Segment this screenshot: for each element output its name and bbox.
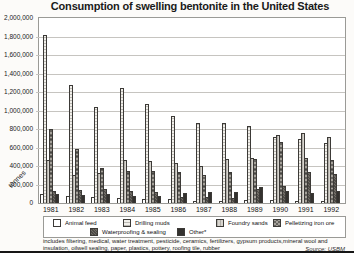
legend-swatch xyxy=(273,219,281,227)
legend-item: Foundry sands xyxy=(216,219,268,227)
gridline xyxy=(36,37,345,38)
x-axis-label: 1983 xyxy=(94,206,110,213)
y-axis-label: 1,000,000 xyxy=(4,107,33,114)
bar-group-1982 xyxy=(65,85,90,203)
legend-label: Other* xyxy=(185,229,206,235)
legend-label: Pelletizing iron ore xyxy=(281,220,334,226)
bar xyxy=(234,192,238,203)
bar xyxy=(285,191,289,203)
bar xyxy=(183,193,187,203)
legend: Animal feedDrilling mudsFoundry sandsPel… xyxy=(43,216,346,238)
y-axis-label: 600,000 xyxy=(10,144,34,151)
bar xyxy=(106,194,110,203)
x-axis: 1981198219831984198519861987198819891990… xyxy=(38,206,345,216)
bar xyxy=(132,196,136,203)
bar xyxy=(81,195,85,203)
legend-swatch xyxy=(177,228,185,236)
chart-title: Consumption of swelling bentonite in the… xyxy=(30,0,350,12)
x-axis-label: 1991 xyxy=(298,206,314,213)
legend-swatch xyxy=(216,219,224,227)
gridline xyxy=(36,55,345,56)
x-axis-label: 1984 xyxy=(119,206,135,213)
bar-group-1985 xyxy=(141,104,166,203)
x-axis-label: 1990 xyxy=(272,206,288,213)
legend-label: Foundry sands xyxy=(224,220,268,226)
bar-group-1986 xyxy=(167,116,192,203)
bar xyxy=(336,191,340,203)
footnote: includes filtering, medical, water treat… xyxy=(43,238,346,252)
gridline xyxy=(36,74,345,75)
bar-group-1988 xyxy=(218,123,243,203)
y-axis-label: 1,600,000 xyxy=(4,51,33,58)
legend-item: Waterproofing & sealing xyxy=(90,228,166,236)
x-axis-label: 1985 xyxy=(145,206,161,213)
bar xyxy=(55,194,59,203)
bar xyxy=(259,187,263,203)
legend-label: Drilling muds xyxy=(131,220,170,226)
x-axis-label: 1982 xyxy=(68,206,84,213)
bar-group-1981 xyxy=(39,35,64,203)
y-axis-label: 2,000,000 xyxy=(4,14,33,21)
bar xyxy=(157,196,161,203)
legend-swatch xyxy=(123,219,131,227)
y-axis-label: 800,000 xyxy=(10,125,34,132)
bar-group-1991 xyxy=(294,133,319,203)
x-axis-label: 1981 xyxy=(43,206,59,213)
legend-item: Animal feed xyxy=(53,219,97,227)
bar-group-1983 xyxy=(90,107,115,203)
bar xyxy=(310,193,314,203)
legend-item: Pelletizing iron ore xyxy=(273,219,334,227)
bar-group-1989 xyxy=(243,126,268,203)
plot-area xyxy=(38,17,346,204)
bar-group-1984 xyxy=(116,88,141,203)
bar-group-1990 xyxy=(269,135,294,203)
legend-swatch xyxy=(90,228,98,236)
legend-label: Waterproofing & sealing xyxy=(98,229,166,235)
y-axis-label: 0 xyxy=(29,199,33,206)
x-axis-label: 1986 xyxy=(170,206,186,213)
bar-group-1992 xyxy=(320,137,345,203)
x-axis-label: 1992 xyxy=(323,206,339,213)
x-axis-label: 1988 xyxy=(221,206,237,213)
x-axis-label: 1987 xyxy=(196,206,212,213)
legend-item: Other* xyxy=(177,228,206,236)
bar-group-1987 xyxy=(192,123,217,203)
x-axis-label: 1989 xyxy=(247,206,263,213)
legend-item: Drilling muds xyxy=(123,219,170,227)
source-credit: Source: USBM xyxy=(305,246,345,252)
legend-label: Animal feed xyxy=(61,220,97,226)
bar xyxy=(208,192,212,203)
y-axis-label: 1,800,000 xyxy=(4,33,33,40)
legend-swatch xyxy=(53,219,61,227)
y-axis-label: 1,400,000 xyxy=(4,70,33,77)
y-axis-label: 1,200,000 xyxy=(4,88,33,95)
bentonite-consumption-chart: Consumption of swelling bentonite in the… xyxy=(0,0,354,253)
